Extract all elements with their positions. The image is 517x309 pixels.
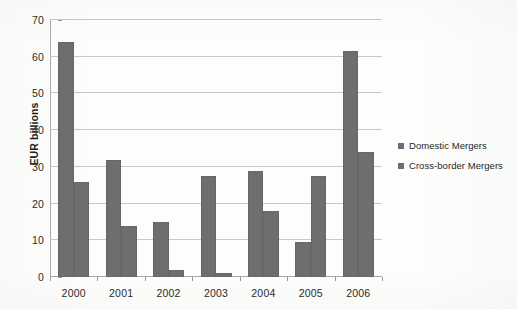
y-axis-ticks: 010203040506070 [14, 20, 44, 277]
bar-domestic-2006 [343, 51, 359, 277]
y-tick-label-40: 40 [18, 124, 44, 136]
bar-crossborder-2006 [358, 152, 374, 277]
legend-label: Domestic Mergers [409, 140, 487, 151]
bar-domestic-2002 [153, 222, 169, 277]
legend-item-domestic-mergers: Domestic Mergers [398, 140, 514, 151]
plot-area [50, 20, 382, 277]
x-tick-label-2006: 2006 [335, 287, 381, 299]
x-tick-label-2000: 2000 [51, 287, 97, 299]
x-tick-mark-1 [97, 277, 98, 281]
y-tick-label-20: 20 [18, 198, 44, 210]
x-tick-label-2002: 2002 [146, 287, 192, 299]
y-tick-label-70: 70 [18, 14, 44, 26]
x-tick-label-2001: 2001 [98, 287, 144, 299]
y-tick-label-30: 30 [18, 161, 44, 173]
bar-group-2003 [201, 20, 232, 277]
x-tick-label-2004: 2004 [240, 287, 286, 299]
bar-group-2002 [153, 20, 184, 277]
bar-group-2005 [295, 20, 326, 277]
bar-domestic-2003 [201, 176, 217, 277]
x-tick-mark-4 [240, 277, 241, 281]
bar-group-2000 [58, 20, 89, 277]
x-tick-mark-7 [382, 277, 383, 281]
y-tick-label-0: 0 [18, 271, 44, 283]
bar-group-2006 [343, 20, 374, 277]
bar-group-2001 [106, 20, 137, 277]
legend-item-cross-border-mergers: Cross-border Mergers [398, 160, 514, 171]
x-tick-label-2003: 2003 [193, 287, 239, 299]
bar-crossborder-2000 [74, 182, 90, 277]
legend-label: Cross-border Mergers [409, 160, 503, 171]
x-tick-mark-6 [335, 277, 336, 281]
x-tick-mark-5 [287, 277, 288, 281]
bar-domestic-2005 [295, 242, 311, 277]
y-tick-label-50: 50 [18, 87, 44, 99]
chart-screenshot: EUR billions 010203040506070 20002001200… [0, 0, 517, 309]
bar-crossborder-2002 [169, 270, 185, 277]
bars-layer [50, 20, 382, 277]
bar-crossborder-2005 [311, 176, 327, 277]
legend-swatch-icon [398, 143, 404, 149]
bar-domestic-2000 [58, 42, 74, 277]
y-tick-label-10: 10 [18, 234, 44, 246]
y-tick-label-60: 60 [18, 51, 44, 63]
bar-group-2004 [248, 20, 279, 277]
bar-crossborder-2004 [263, 211, 279, 277]
x-axis-ticks: 2000200120022003200420052006 [50, 277, 382, 307]
x-tick-mark-3 [192, 277, 193, 281]
x-tick-mark-2 [145, 277, 146, 281]
bar-crossborder-2001 [121, 226, 137, 277]
bar-domestic-2001 [106, 160, 122, 277]
chart-legend: Domestic MergersCross-border Mergers [398, 140, 514, 180]
x-tick-label-2005: 2005 [288, 287, 334, 299]
legend-swatch-icon [398, 163, 404, 169]
bar-domestic-2004 [248, 171, 264, 277]
x-tick-mark-0 [50, 277, 51, 281]
